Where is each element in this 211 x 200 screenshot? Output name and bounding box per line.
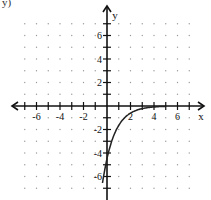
grid-dot <box>83 188 84 189</box>
grid-dot <box>177 164 178 165</box>
grid-dot <box>153 35 154 36</box>
grid-dot <box>130 82 131 83</box>
grid-dot <box>83 23 84 24</box>
grid-dot <box>142 164 143 165</box>
grid-dot <box>153 94 154 95</box>
grid-dot <box>118 23 119 24</box>
grid-dot <box>71 82 72 83</box>
grid-dot <box>59 23 60 24</box>
grid-dot <box>71 23 72 24</box>
grid-dot <box>59 58 60 59</box>
grid-dot <box>118 176 119 177</box>
grid-dot <box>142 58 143 59</box>
grid-dot <box>189 82 190 83</box>
grid-dot <box>118 35 119 36</box>
grid-dot <box>118 129 119 130</box>
grid-dot <box>189 164 190 165</box>
grid-dot <box>59 47 60 48</box>
grid-dot <box>24 129 25 130</box>
grid-dot <box>71 141 72 142</box>
grid-dot <box>118 164 119 165</box>
grid-dot <box>177 35 178 36</box>
grid-dot <box>36 58 37 59</box>
grid-dot <box>59 70 60 71</box>
y-tick-label: 2 <box>97 77 102 88</box>
grid-dot <box>83 58 84 59</box>
grid-dot <box>142 129 143 130</box>
grid-dot <box>118 58 119 59</box>
grid-dot <box>189 94 190 95</box>
grid-dot <box>153 164 154 165</box>
grid-dot <box>142 35 143 36</box>
grid-dot <box>189 58 190 59</box>
grid-dot <box>165 152 166 153</box>
grid-dot <box>36 94 37 95</box>
grid-dot <box>177 94 178 95</box>
grid-dot <box>71 94 72 95</box>
grid-dot <box>59 141 60 142</box>
grid-dot <box>118 70 119 71</box>
grid-dot <box>165 117 166 118</box>
grid-dot <box>153 23 154 24</box>
grid-dot <box>153 58 154 59</box>
grid-dot <box>95 117 96 118</box>
grid-dot <box>189 188 190 189</box>
grid-dot <box>177 141 178 142</box>
grid-dot <box>24 164 25 165</box>
grid-dot <box>36 35 37 36</box>
grid-dot <box>189 176 190 177</box>
grid-dot <box>177 23 178 24</box>
grid-dot <box>24 47 25 48</box>
grid-dot <box>189 47 190 48</box>
grid-dot <box>165 35 166 36</box>
grid-dot <box>83 141 84 142</box>
grid-dot <box>165 188 166 189</box>
grid-dot <box>130 94 131 95</box>
grid-dot <box>59 129 60 130</box>
grid-dot <box>59 176 60 177</box>
grid-dot <box>189 35 190 36</box>
grid-dot <box>24 82 25 83</box>
grid-dot <box>48 70 49 71</box>
grid-dot <box>153 82 154 83</box>
grid-dot <box>130 141 131 142</box>
grid-dot <box>71 58 72 59</box>
grid-dot <box>130 23 131 24</box>
grid-dot <box>165 141 166 142</box>
y-tick-label: -6 <box>94 171 102 182</box>
grid-dot <box>130 152 131 153</box>
grid-dot <box>177 152 178 153</box>
grid-dot <box>130 47 131 48</box>
grid-dot <box>189 23 190 24</box>
grid-dot <box>130 58 131 59</box>
grid-dot <box>177 129 178 130</box>
grid-dot <box>24 70 25 71</box>
grid-dot <box>142 152 143 153</box>
grid-dot <box>189 129 190 130</box>
y-tick-label: -2 <box>94 124 102 135</box>
grid-dot <box>165 129 166 130</box>
grid-dot <box>95 82 96 83</box>
grid-dot <box>83 94 84 95</box>
x-tick-label: -2 <box>79 111 87 122</box>
grid-dot <box>153 152 154 153</box>
grid-dot <box>24 188 25 189</box>
grid-dot <box>118 141 119 142</box>
x-tick-label: -4 <box>56 111 64 122</box>
grid-dot <box>95 141 96 142</box>
grid-dot <box>48 94 49 95</box>
grid-dot <box>36 70 37 71</box>
y-tick-label: -4 <box>94 148 102 159</box>
grid-dot <box>142 70 143 71</box>
grid-dot <box>24 117 25 118</box>
y-tick-label: 6 <box>97 30 102 41</box>
grid-dot <box>48 117 49 118</box>
grid-dot <box>48 141 49 142</box>
grid-dot <box>177 82 178 83</box>
grid-dot <box>59 188 60 189</box>
grid-dot <box>189 117 190 118</box>
grid-dot <box>24 94 25 95</box>
grid-dot <box>165 176 166 177</box>
grid-dot <box>165 94 166 95</box>
grid-dot <box>71 117 72 118</box>
